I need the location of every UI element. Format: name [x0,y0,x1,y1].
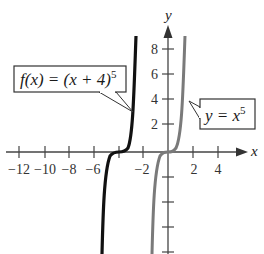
y-axis-label: y [163,7,172,23]
x-tick-label: −8 [62,162,77,177]
callout-g-text: y = x5 [203,104,246,125]
x-tick-label: −6 [86,162,101,177]
y-tick-label: 8 [151,42,158,57]
y-tick-label: 6 [151,67,158,82]
x-tick-label: −2 [135,162,150,177]
y-tick-label: 4 [151,92,158,107]
function-graph: x −12 −10 −8 −6 −2 2 4 y [0,0,264,254]
callout-f-text: f(x) = (x + 4)5 [20,68,117,89]
x-tick-label: −12 [8,162,30,177]
x-axis-label: x [250,143,258,159]
x-axis-arrow-icon [236,148,248,157]
y-tick-label: 2 [151,117,158,132]
x-tick-label: −10 [34,162,56,177]
x-axis: x −12 −10 −8 −6 −2 2 4 [6,143,258,177]
x-tick-label: 4 [215,162,222,177]
callout-f: f(x) = (x + 4)5 [14,66,133,112]
y-axis-arrow-icon [164,25,173,38]
x-tick-label: 2 [191,162,198,177]
callout-g: y = x5 [189,99,255,129]
